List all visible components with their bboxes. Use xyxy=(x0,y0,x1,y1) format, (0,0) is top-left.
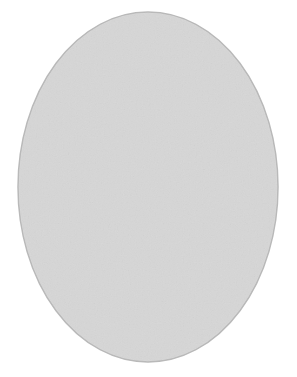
cytoplasm-texture xyxy=(19,13,277,361)
cell-diagram xyxy=(0,0,297,377)
mitosis-figure xyxy=(0,0,297,377)
cell-body xyxy=(18,12,278,362)
